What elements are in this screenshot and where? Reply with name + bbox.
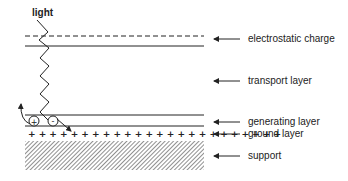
- ground-layer-charges: + + + + + + + + + + + + + + + + + + + + …: [28, 129, 281, 139]
- ground-layer-label: ground layer: [248, 129, 304, 139]
- transport-layer-label: transport layer: [248, 76, 312, 86]
- negative-charge-icon: -: [48, 116, 58, 126]
- photoreceptor-diagram: + + + + + + + + + + + + + + + + + + + + …: [0, 0, 348, 181]
- svg-text:+: +: [31, 118, 38, 127]
- light-label: light: [32, 8, 53, 18]
- electrostatic-charge-label: electrostatic charge: [248, 34, 335, 44]
- generating-layer-label: generating layer: [248, 117, 320, 127]
- light-zigzag-icon: [37, 20, 49, 120]
- positive-charge-icon: +: [29, 116, 39, 127]
- svg-text:-: -: [52, 117, 55, 126]
- svg-text:+ + + + + + + + + + + + + + +: + + + + + + + + + + + + + + + + + + + + …: [28, 129, 281, 139]
- support-block: [25, 141, 204, 170]
- support-label: support: [248, 151, 281, 161]
